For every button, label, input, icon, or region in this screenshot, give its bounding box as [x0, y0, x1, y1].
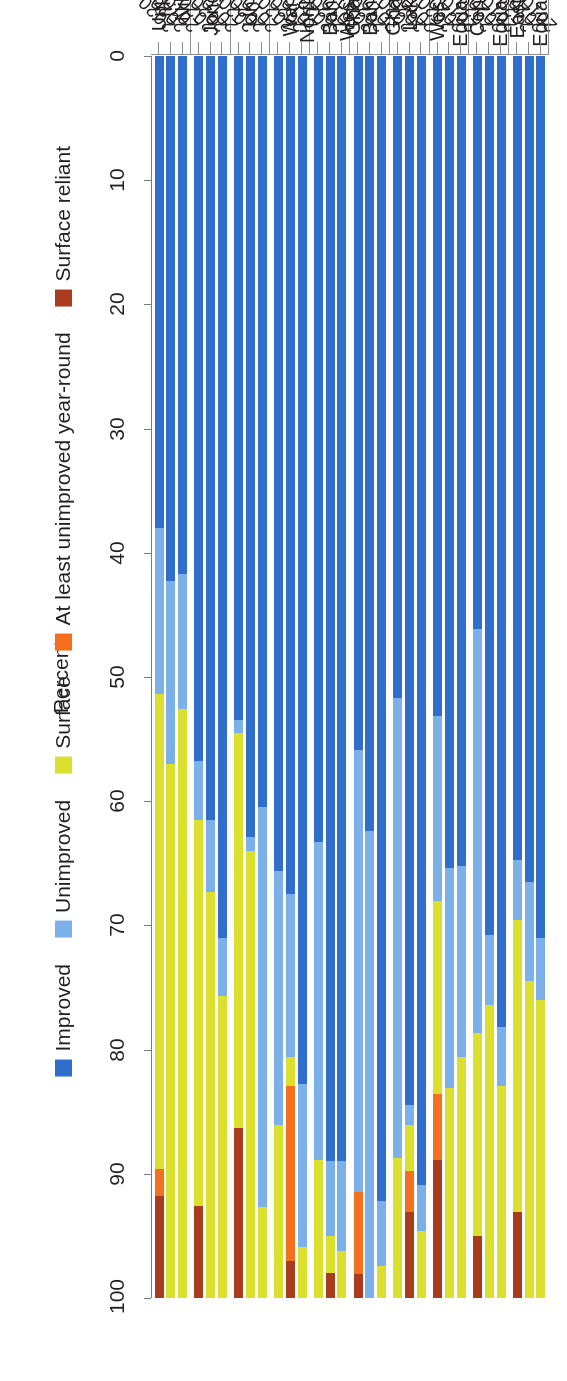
bar [286, 56, 295, 1298]
value-axis-tick [144, 1174, 151, 1175]
bar [393, 56, 402, 1298]
legend-item[interactable]: At least unimproved year-round [51, 332, 75, 650]
value-axis-tick [144, 677, 151, 678]
bar-segment [194, 761, 203, 819]
bar-segment [445, 868, 454, 1088]
bar-segment [206, 820, 215, 892]
bar-segment [234, 1128, 243, 1298]
bar-segment [473, 629, 482, 1034]
bar-segment [234, 733, 243, 1128]
bar-segment [337, 56, 346, 1161]
value-axis-line [151, 56, 152, 1298]
bar-segment [274, 1125, 283, 1298]
bar-segment [218, 56, 227, 938]
bar-segment [298, 1247, 307, 1298]
value-axis-tick [144, 304, 151, 305]
bar-segment [354, 1192, 363, 1274]
value-axis-tick [144, 553, 151, 554]
value-axis-tick [144, 801, 151, 802]
bar [354, 56, 363, 1298]
bar-segment [365, 56, 374, 831]
bar [155, 56, 164, 1298]
bar-segment [457, 56, 466, 866]
bar-segment [155, 1169, 164, 1196]
bar-segment [417, 1231, 426, 1298]
legend-swatch-surface [55, 757, 72, 774]
value-axis-tick-label: 80 [105, 1034, 129, 1066]
year-tick [488, 42, 489, 54]
legend-item-label: At least unimproved year-round [51, 332, 75, 625]
bar [525, 56, 534, 1298]
bar-segment [298, 1084, 307, 1247]
bar-segment [286, 1261, 295, 1298]
bar-segment [433, 716, 442, 901]
year-tick [329, 42, 330, 54]
bar [166, 56, 175, 1298]
year-tick [516, 42, 517, 54]
year-tick [409, 42, 410, 54]
bar-segment [166, 581, 175, 764]
bar [178, 56, 187, 1298]
year-tick [158, 42, 159, 54]
bar-segment [326, 56, 335, 1161]
bar [377, 56, 386, 1298]
legend-item[interactable]: Surface reliant [51, 146, 75, 306]
value-axis-tick-label: 0 [105, 40, 129, 72]
bar [258, 56, 267, 1298]
bar-segment [433, 1160, 442, 1298]
bar-segment [485, 56, 494, 935]
bar-segment [433, 1094, 442, 1160]
bar-segment [326, 1161, 335, 1236]
bar-segment [166, 764, 175, 1298]
bar-segment [525, 981, 534, 1298]
legend-swatch-unimproved [55, 921, 72, 938]
bar-segment [258, 56, 267, 807]
bar-segment [166, 56, 175, 581]
bar-segment [234, 56, 243, 720]
bar-segment [337, 1161, 346, 1250]
bar-segment [457, 1057, 466, 1298]
bar [536, 56, 545, 1298]
value-axis-tick-label: 70 [105, 909, 129, 941]
legend-swatch-surface-reliant [55, 289, 72, 306]
bar-segment [365, 831, 374, 1298]
year-tick [278, 42, 279, 54]
bar-segment [314, 1160, 323, 1298]
bar-segment [194, 820, 203, 1206]
legend-item[interactable]: Unimproved [51, 800, 75, 938]
bar-segment [258, 1207, 267, 1298]
chart-legend: ImprovedUnimprovedSurfaceAt least unimpr… [51, 120, 75, 1077]
bar-segment [457, 866, 466, 1057]
bar-segment [155, 694, 164, 1168]
bar [206, 56, 215, 1298]
bar-segment [536, 56, 545, 938]
bar-segment [246, 56, 255, 837]
bar-segment [485, 935, 494, 1005]
category-axis-line [151, 54, 549, 55]
legend-item[interactable]: Surface [51, 676, 75, 773]
bar [298, 56, 307, 1298]
year-tick [317, 42, 318, 54]
bar-segment [155, 528, 164, 694]
bar-segment [354, 1274, 363, 1298]
legend-swatch-improved [55, 1060, 72, 1077]
bar-segment [246, 851, 255, 1298]
year-tick [210, 42, 211, 54]
bar-segment [473, 1033, 482, 1235]
bar-segment [513, 1212, 522, 1298]
year-tick [437, 42, 438, 54]
bar [246, 56, 255, 1298]
bar-segment [417, 56, 426, 1185]
value-axis-tick-label: 40 [105, 537, 129, 569]
bar-segment [194, 56, 203, 761]
year-tick [369, 42, 370, 54]
value-axis-tick-label: 30 [105, 413, 129, 445]
legend-item-label: Surface reliant [51, 146, 75, 281]
legend-item[interactable]: Improved [51, 964, 75, 1077]
bar-segment [405, 1125, 414, 1171]
bar-segment [155, 1196, 164, 1298]
value-axis-tick-label: 20 [105, 288, 129, 320]
plot-area: 0102030405060708090100 [151, 56, 549, 1298]
bar-segment [485, 1005, 494, 1298]
bar-segment [417, 1185, 426, 1231]
